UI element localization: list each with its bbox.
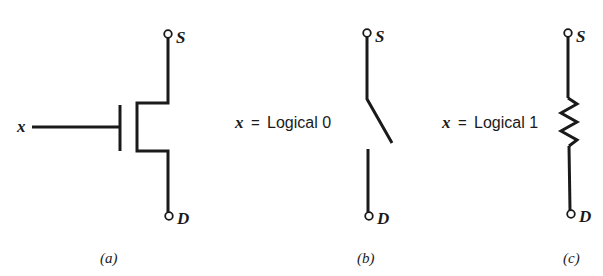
caption-a: (a) (100, 250, 118, 267)
channel-wire (137, 38, 168, 212)
condition-text-b: Logical 0 (267, 114, 331, 131)
drain-label: D (176, 209, 189, 228)
source-terminal-icon (164, 30, 172, 38)
drain-label: D (376, 209, 389, 228)
source-label: S (576, 27, 585, 46)
caption-c: (c) (563, 250, 580, 267)
source-label: S (176, 28, 185, 47)
source-label: S (375, 27, 384, 46)
condition-var-c: x (441, 113, 451, 132)
condition-var-b: x (234, 113, 244, 132)
switch-blade (367, 37, 392, 143)
panel-c-resistor: x = Logical 1 S D (c) (441, 27, 591, 267)
resistor-zigzag-icon (561, 98, 577, 146)
condition-text-c: Logical 1 (474, 114, 538, 131)
gate-input-label: x (16, 117, 26, 136)
panel-b-open-switch: x = Logical 0 S D (b) (234, 27, 392, 267)
drain-terminal-icon (165, 212, 173, 220)
source-terminal-icon (564, 29, 572, 37)
panel-a-transistor: x S D (a) (16, 28, 189, 267)
condition-eq-b: = (251, 114, 260, 131)
drain-terminal-icon (567, 210, 575, 218)
drain-label: D (578, 207, 591, 226)
condition-eq-c: = (458, 114, 467, 131)
transistor-switch-model-diagram: x S D (a) x = Logical 0 S D (b) x = Logi… (0, 0, 603, 276)
resistor-lower-wire (569, 146, 570, 210)
drain-terminal-icon (365, 212, 373, 220)
source-terminal-icon (363, 29, 371, 37)
caption-b: (b) (357, 250, 375, 267)
